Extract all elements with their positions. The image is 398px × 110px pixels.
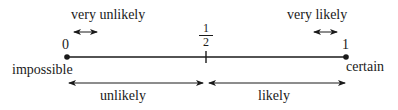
certain-label: certain [346, 60, 384, 74]
very-likely-label: very likely [287, 8, 347, 22]
unlikely-label: unlikely [100, 89, 146, 103]
half-denominator: 2 [199, 36, 213, 48]
very-unlikely-label: very unlikely [71, 8, 145, 22]
impossible-label: impossible [12, 63, 73, 77]
one-value-label: 1 [342, 38, 349, 52]
zero-point-dot [64, 54, 70, 60]
half-fraction-label: 1 2 [199, 23, 213, 48]
zero-value-label: 0 [62, 38, 69, 52]
likely-label: likely [258, 89, 290, 103]
